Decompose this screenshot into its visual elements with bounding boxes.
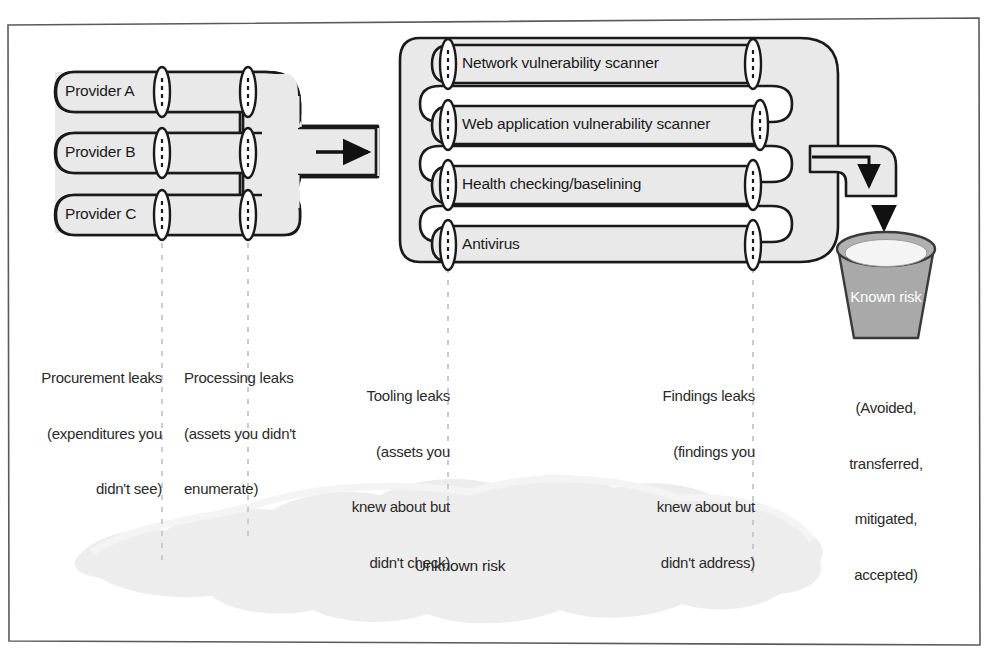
valve-c-1	[154, 190, 170, 240]
cloud-label: Unknown risk	[370, 557, 550, 575]
valve-t1-1	[440, 39, 456, 89]
valve-b-1	[154, 128, 170, 178]
leak-line-2: (findings you	[620, 443, 755, 462]
valve-b-2	[240, 128, 256, 178]
leak-line-1: Tooling leaks	[318, 387, 450, 406]
leak-line-1: Procurement leaks	[20, 369, 162, 388]
valve-a-1	[154, 67, 170, 117]
valve-t2-1	[440, 100, 456, 150]
valve-a-2	[240, 67, 256, 117]
leak-line-2: (expenditures you	[20, 425, 162, 444]
provider-label-a: Provider A	[65, 82, 135, 100]
tool-label-web-application-vulnerability-scanner: Web application vulnerability scanner	[462, 115, 710, 133]
bucket-caption-line-3: mitigated,	[822, 510, 950, 529]
leak-annotation-findings: Findings leaks (findings you knew about …	[620, 350, 755, 609]
leak-line-4: didn't address)	[620, 554, 755, 573]
bucket-caption: (Avoided, transferred, mitigated, accept…	[822, 362, 950, 621]
tool-label-antivirus: Antivirus	[462, 235, 520, 253]
bucket-caption-line-4: accepted)	[822, 566, 950, 585]
leak-line-1: Findings leaks	[620, 387, 755, 406]
valve-t4-1	[440, 220, 456, 270]
valve-t2-2	[752, 100, 768, 150]
valve-c-2	[240, 190, 256, 240]
bucket-liquid	[845, 240, 927, 267]
valve-t4-2	[745, 220, 761, 270]
bucket-label: Known risk	[836, 288, 936, 305]
bucket-caption-line-1: (Avoided,	[822, 399, 950, 418]
diagram-canvas: Provider A Provider B Provider C Network…	[0, 0, 987, 653]
provider-label-b: Provider B	[65, 143, 135, 161]
bucket-caption-line-2: transferred,	[822, 455, 950, 474]
known-risk-bucket	[837, 232, 935, 338]
valve-t1-2	[745, 39, 761, 89]
leak-annotation-procurement: Procurement leaks (expenditures you didn…	[20, 332, 162, 536]
valve-t3-1	[440, 160, 456, 210]
tool-label-network-vulnerability-scanner: Network vulnerability scanner	[462, 54, 659, 72]
leak-line-2: (assets you	[318, 443, 450, 462]
valve-t3-2	[745, 160, 761, 210]
leak-line-3: didn't see)	[20, 480, 162, 499]
tool-label-health-checking-baselining: Health checking/baselining	[462, 175, 641, 193]
provider-label-c: Provider C	[65, 205, 136, 223]
leak-line-3: knew about but	[318, 498, 450, 517]
leak-line-3: knew about but	[620, 498, 755, 517]
